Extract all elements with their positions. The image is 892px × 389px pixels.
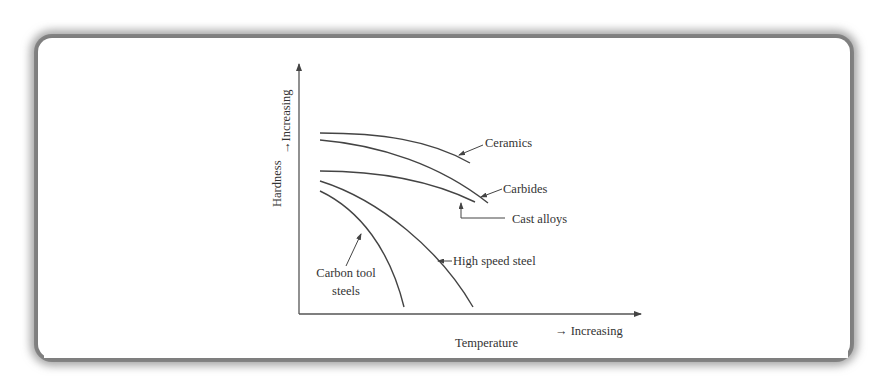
label-high-speed-steel: High speed steel	[453, 254, 536, 268]
x-axis-direction: → Increasing	[555, 324, 623, 338]
carbides-pointer-arrow	[481, 189, 502, 197]
label-carbon-tool-steels-line1: Carbon tool	[316, 266, 376, 280]
curve-cast-alloys	[320, 171, 475, 202]
label-carbon-tool-steels-line2: steels	[332, 284, 360, 298]
x-axis-title: Temperature	[455, 336, 518, 350]
carbon-tool-steels-pointer-arrow	[346, 234, 361, 266]
y-axis-title: Hardness	[270, 160, 284, 207]
cast-alloys-pointer-arrow	[461, 203, 505, 218]
hardness-temperature-chart: Hardness →Increasing Ceramics Carbides C…	[0, 0, 892, 389]
curve-ceramics	[320, 133, 470, 163]
label-carbides: Carbides	[503, 182, 548, 196]
y-axis-direction: →Increasing	[279, 89, 293, 154]
ceramics-pointer-arrow	[459, 145, 483, 155]
label-cast-alloys: Cast alloys	[512, 212, 567, 226]
label-ceramics: Ceramics	[485, 136, 532, 150]
